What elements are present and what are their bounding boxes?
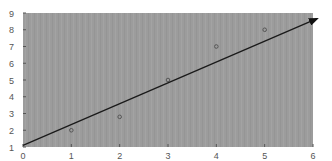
x-tick-label: 4 <box>214 151 219 161</box>
y-tick-label: 9 <box>9 9 14 19</box>
x-tick-label: 6 <box>310 151 315 161</box>
scatter-chart: 123456789 0123456 <box>0 0 332 161</box>
x-tick-label: 0 <box>20 151 25 161</box>
x-tick-label: 5 <box>262 151 267 161</box>
y-tick-label: 2 <box>9 126 14 136</box>
y-tick-label: 1 <box>9 143 14 153</box>
y-tick-label: 6 <box>9 59 14 69</box>
y-tick-label: 7 <box>9 42 14 52</box>
x-tick-label: 1 <box>69 151 74 161</box>
x-tick-label: 2 <box>117 151 122 161</box>
y-tick-label: 8 <box>9 25 14 35</box>
y-tick-label: 5 <box>9 76 14 86</box>
y-tick-label: 4 <box>9 92 14 102</box>
x-tick-label: 3 <box>165 151 170 161</box>
y-tick-label: 3 <box>9 109 14 119</box>
